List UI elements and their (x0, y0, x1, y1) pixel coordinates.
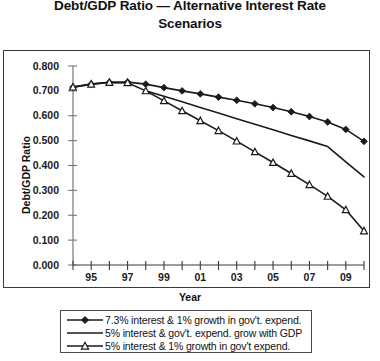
legend-item[interactable]: 5% interest & 1% growth in gov't expend. (61, 340, 311, 352)
x-axis-title: Year (0, 291, 380, 303)
diamond-marker (233, 97, 240, 104)
diamond-marker (215, 94, 222, 101)
triangle-marker (197, 117, 204, 123)
diamond-marker (324, 119, 331, 126)
data-series-group (70, 79, 368, 234)
x-axis-tick-label: 05 (261, 272, 285, 283)
triangle-marker (215, 127, 222, 133)
triangle-marker (306, 181, 313, 187)
legend-item-label: 7.3% interest & 1% growth in gov't. expe… (105, 314, 301, 326)
x-axis-tick-label: 99 (152, 272, 176, 283)
y-axis-tick-label: 0.000 (13, 260, 59, 271)
plain-line-marker (65, 327, 105, 339)
triangle-marker (233, 138, 240, 144)
triangle-marker (324, 193, 331, 199)
triangle-open-marker (65, 340, 105, 352)
diamond-marker (197, 90, 204, 97)
x-axis-tick-label: 97 (116, 272, 140, 283)
chart-legend: 7.3% interest & 1% growth in gov't. expe… (60, 310, 312, 353)
x-axis-tick-label: 07 (297, 272, 321, 283)
series-1 (70, 79, 368, 145)
diamond-marker (161, 84, 168, 91)
x-axis-tick-label: 03 (225, 272, 249, 283)
page-title: Debt/GDP Ratio — Alternative Interest Ra… (0, 0, 380, 33)
y-axis-tick-label: 0.800 (13, 61, 59, 72)
series-3 (70, 79, 368, 234)
diamond-marker (270, 104, 277, 111)
diamond-marker (251, 100, 258, 107)
triangle-marker (251, 148, 258, 154)
chart-title-line-2: Scenarios (0, 15, 380, 33)
chart-title-line-1: Debt/GDP Ratio — Alternative Interest Ra… (0, 0, 380, 15)
legend-item[interactable]: 5% interest & gov't. expend. grow with G… (61, 327, 311, 339)
x-axis-tick-label: 95 (79, 272, 103, 283)
x-axis-tick-label: 01 (188, 272, 212, 283)
diamond-marker (288, 108, 295, 115)
diamond-marker (306, 113, 313, 120)
legend-item[interactable]: 7.3% interest & 1% growth in gov't. expe… (61, 314, 311, 326)
diamond-filled-marker (65, 314, 105, 326)
y-axis-tick-label: 0.100 (13, 235, 59, 246)
chart-plot-frame: 0.8000.7000.6000.5000.4000.3000.2000.100… (3, 50, 370, 288)
x-axis-tick-label: 09 (334, 272, 358, 283)
legend-item-label: 5% interest & gov't. expend. grow with G… (105, 327, 302, 339)
diamond-marker (179, 87, 186, 94)
y-axis-title: Debt/GDP Ratio (20, 120, 32, 230)
triangle-marker (179, 107, 186, 113)
series-line (73, 82, 364, 231)
triangle-marker (288, 170, 295, 176)
triangle-marker (161, 97, 168, 103)
y-axis-tick-label: 0.700 (13, 85, 59, 96)
legend-item-label: 5% interest & 1% growth in gov't expend. (105, 340, 290, 352)
chart-canvas (4, 51, 371, 289)
triangle-marker (270, 159, 277, 165)
